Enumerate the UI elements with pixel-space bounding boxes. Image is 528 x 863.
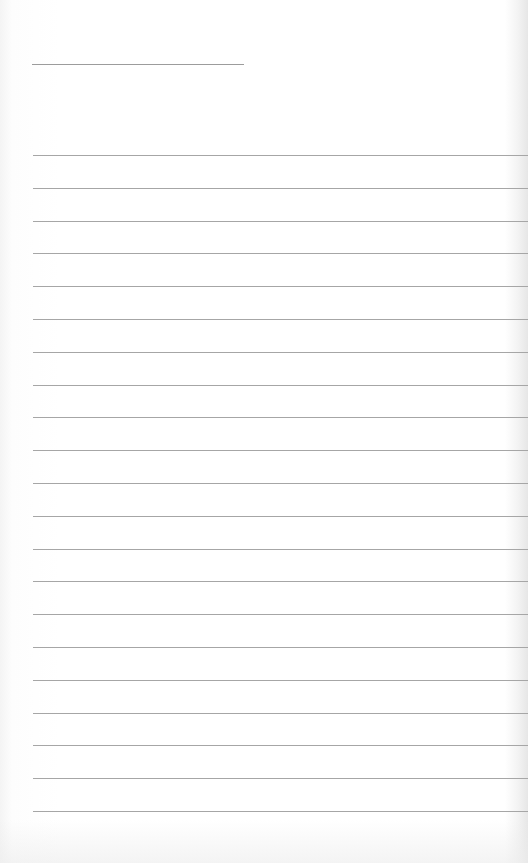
ruled-lines-container	[0, 0, 528, 863]
ruled-line	[33, 680, 528, 681]
ruled-line	[33, 352, 528, 353]
ruled-line	[33, 647, 528, 648]
ruled-line	[33, 253, 528, 254]
ruled-line	[33, 385, 528, 386]
ruled-line	[33, 581, 528, 582]
ruled-line	[33, 188, 528, 189]
ruled-line	[33, 713, 528, 714]
ruled-line	[33, 450, 528, 451]
ruled-line	[33, 811, 528, 812]
ruled-line	[33, 549, 528, 550]
ruled-line	[33, 614, 528, 615]
ruled-line	[33, 417, 528, 418]
ruled-line	[33, 778, 528, 779]
ruled-line	[33, 483, 528, 484]
ruled-line	[33, 221, 528, 222]
ruled-line	[33, 516, 528, 517]
ruled-line	[33, 155, 528, 156]
ruled-line	[33, 286, 528, 287]
notebook-page	[0, 0, 528, 863]
ruled-line	[33, 319, 528, 320]
ruled-line	[33, 745, 528, 746]
page-bottom-shade	[0, 820, 528, 863]
